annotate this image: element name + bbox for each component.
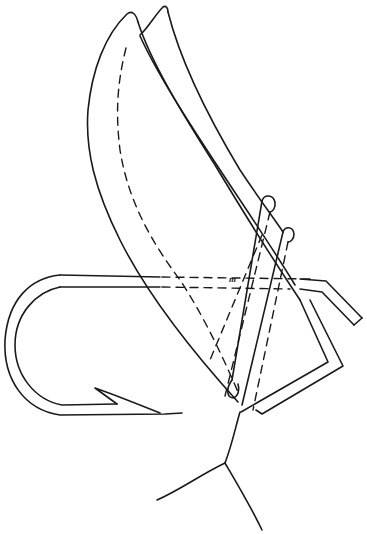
front-wing-right-edge [168,12,283,232]
binding-dashed-3 [210,235,262,360]
fly-drawing [0,0,367,534]
rear-wing-right-edge [138,22,300,300]
rear-wing-outline [87,12,238,402]
fly-diagram: m [0,0,367,534]
binding-loop-upper-strand-3 [242,232,283,405]
binding-dashed-2 [253,242,288,410]
binding-loop-upper-strand [232,201,262,380]
front-wing-left-edge [140,6,168,35]
hook-shank-upper-dashed [162,277,310,279]
wing-lower-outline-2 [256,300,343,414]
tail-fiber-left [157,463,225,500]
binding-loop-upper-strand-2 [283,228,294,242]
hook-eye-upper [300,279,362,318]
hook-barb [95,388,160,413]
rear-wing-inner-dashed [118,48,238,392]
hook-eye-tip [354,318,362,325]
tail-fiber-right [225,463,262,530]
figure-label: m [229,274,235,284]
hook-shank-upper [60,275,160,277]
hook-shank-lower-dashed [162,287,290,289]
hook-bend-outer [5,275,182,415]
front-wing-top-edge [140,36,295,285]
tail-stem [225,412,240,463]
hook-bend-inner [15,287,117,405]
binding-dashed-1 [225,212,270,396]
